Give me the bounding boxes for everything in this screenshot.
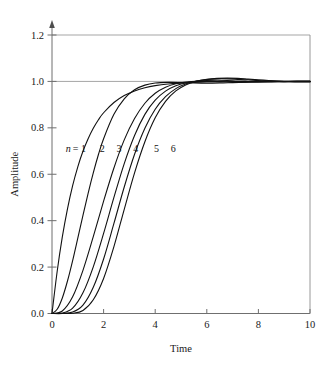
x-tick-label-8: 8 <box>256 319 261 330</box>
curve-label-order-4: 4 <box>133 143 138 154</box>
y-tick-label-0.6: 0.6 <box>31 169 44 180</box>
chart-background <box>0 0 334 367</box>
curve-label-order-1: = 1 <box>73 143 86 154</box>
x-tick-label-6: 6 <box>204 319 209 330</box>
curve-label-order-3: 3 <box>117 143 122 154</box>
curve-label-order-5: 5 <box>154 143 159 154</box>
y-axis-title: Amplitude <box>9 151 20 196</box>
y-tick-label-1: 1.0 <box>31 76 44 87</box>
y-tick-label-0.2: 0.2 <box>31 262 44 273</box>
curve-label-order-6: 6 <box>171 143 176 154</box>
y-tick-label-1.2: 1.2 <box>31 30 44 41</box>
x-tick-label-2: 2 <box>101 319 106 330</box>
curve-label-order-2: 2 <box>100 143 105 154</box>
step-response-chart: 0246810 0.00.20.40.60.81.01.2 n= 123456 … <box>0 0 334 367</box>
x-tick-label-0: 0 <box>49 319 54 330</box>
figure-container: 0246810 0.00.20.40.60.81.01.2 n= 123456 … <box>0 0 334 367</box>
x-tick-label-4: 4 <box>153 319 159 330</box>
x-tick-label-10: 10 <box>305 319 316 330</box>
y-tick-label-0.8: 0.8 <box>31 122 44 133</box>
y-tick-label-0.4: 0.4 <box>31 215 45 226</box>
curve-label-n-symbol: n <box>66 143 71 154</box>
y-tick-label-0: 0.0 <box>31 308 44 319</box>
x-axis-title: Time <box>170 343 192 354</box>
